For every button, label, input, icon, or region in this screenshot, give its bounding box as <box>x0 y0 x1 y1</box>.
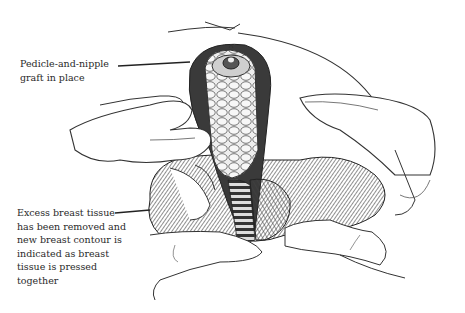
leader-line-excess <box>115 210 150 213</box>
surgical-illustration <box>0 0 465 313</box>
leader-line-pedicle <box>118 62 190 66</box>
